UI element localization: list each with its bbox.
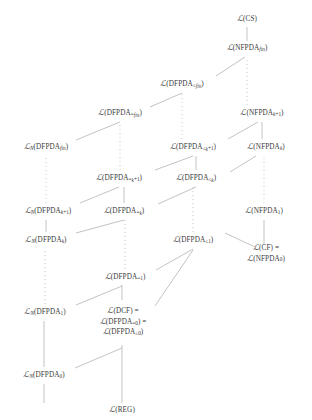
edge-lndfpdafin-dfpdaeqfin bbox=[76, 122, 120, 140]
edge-dfpdalefin-nfpdafin bbox=[216, 57, 245, 76]
node-dfpda-eq-1: ℒ(DFPDA=1) bbox=[105, 272, 146, 282]
node-cf-nfpda-0-line1: ℒ(CF) = bbox=[247, 243, 285, 254]
node-dcf-line3: ℒ(DFPDA≤0) bbox=[100, 327, 147, 338]
node-dfpda-eq-k: ℒ(DFPDA=k) bbox=[104, 206, 145, 216]
edge-dfpdaeqk1-dfpdalek1 bbox=[155, 156, 193, 170]
edge-dfpdaeqk-dfpdalek bbox=[158, 187, 196, 204]
node-dcf: ℒ(DCF) = ℒ(DFPDA=0) = ℒ(DFPDA≤0) bbox=[100, 306, 147, 338]
node-nfpda-k-plus-1: ℒ(NFPDAk+1) bbox=[240, 108, 283, 118]
node-ln-dfpda-fin: ℒN(DFPDAfin) bbox=[24, 142, 68, 152]
node-dfpda-le-k: ℒ(DFPDA≤k) bbox=[176, 173, 216, 183]
edge-dfpdaeqfin-dfpdalefin bbox=[150, 93, 182, 107]
edge-dfpdaeq1-dfpdale1 bbox=[156, 249, 193, 270]
node-reg: ℒ(REG) bbox=[109, 405, 135, 415]
node-cf-nfpda-0: ℒ(CF) = ℒ(NFPDA0) bbox=[247, 243, 285, 264]
node-dfpda-le-1: ℒ(DFPDA≤1) bbox=[173, 235, 214, 245]
node-ln-dfpda-k-plus-1: ℒN(DFPDAk+1) bbox=[25, 206, 72, 216]
node-dcf-line2: ℒ(DFPDA=0) = bbox=[100, 317, 147, 328]
node-ln-dfpda-1: ℒN(DFPDA1) bbox=[24, 307, 65, 317]
edge-dcf-dfpdale1 bbox=[155, 250, 193, 306]
node-cs: ℒ(CS) bbox=[237, 14, 257, 24]
node-dfpda-le-k-plus-1: ℒ(DFPDA≤k+1) bbox=[170, 142, 216, 152]
node-nfpda-k: ℒ(NFPDAk) bbox=[247, 142, 285, 152]
edge-lndfpdak-dfpdaeqk bbox=[76, 220, 124, 233]
node-dcf-line1: ℒ(DCF) = bbox=[100, 306, 147, 317]
node-ln-dfpda-k: ℒN(DFPDAk) bbox=[25, 235, 66, 245]
node-dfpda-le-fin: ℒ(DFPDA≤fin) bbox=[160, 79, 204, 89]
node-ln-dfpda-0: ℒN(DFPDA0) bbox=[23, 370, 64, 380]
node-nfpda-fin: ℒ(NFPDAfin) bbox=[227, 43, 268, 53]
node-dfpda-eq-k-plus-1: ℒ(DFPDA=k+1) bbox=[96, 173, 142, 183]
edge-lndfpda1-dfpdaeq1 bbox=[76, 286, 122, 305]
edge-dfpdalek-nfpdak bbox=[230, 156, 256, 172]
edge-dfpdalek1-nfpdak1 bbox=[228, 122, 258, 139]
hasse-diagram-figure: ℒ(CS) ℒ(NFPDAfin) ℒ(DFPDA≤fin) ℒ(NFPDAk+… bbox=[0, 0, 312, 420]
edge-lndfpdak1-dfpdaeqk1 bbox=[80, 187, 119, 203]
edge-lndfpda0-dcf bbox=[75, 348, 122, 368]
node-cf-nfpda-0-line2: ℒ(NFPDA0) bbox=[247, 253, 285, 264]
node-dfpda-eq-fin: ℒ(DFPDA=fin) bbox=[98, 108, 142, 118]
node-nfpda-1: ℒ(NFPDA1) bbox=[245, 206, 283, 216]
